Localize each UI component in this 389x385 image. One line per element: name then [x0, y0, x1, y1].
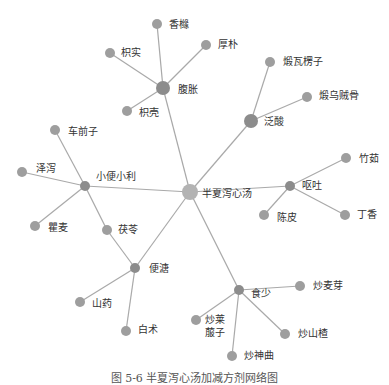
- edge-xiaobian-fuling: [85, 186, 107, 230]
- node-chaoshanzha: [280, 329, 290, 339]
- edge-biantang-shanyao: [80, 268, 135, 302]
- edge-outu-chenpi: [264, 186, 290, 215]
- edge-center-fuzhang: [163, 88, 190, 192]
- edge-center-xiaobian: [85, 186, 190, 192]
- edge-shishao-chaoshenqu: [232, 290, 239, 356]
- node-baizhu: [121, 326, 131, 336]
- edge-fuzhang-xiangyuan: [157, 24, 163, 88]
- node-label-qumai: 瞿麦: [48, 222, 68, 234]
- node-duanwuzeigu: [302, 92, 312, 102]
- node-zhishi: [105, 48, 115, 58]
- node-shanyao: [75, 297, 85, 307]
- node-biantang: [130, 263, 140, 273]
- node-label-xiaobian: 小便小利: [96, 171, 136, 183]
- node-label-dingxiang: 丁香: [357, 209, 377, 221]
- node-label-biantang: 便溏: [149, 263, 169, 275]
- node-label-zhiqiao: 枳壳: [139, 107, 159, 119]
- node-label-zhuru: 竹茹: [359, 153, 379, 165]
- edge-fuzhang-houpo: [163, 45, 206, 88]
- node-fansuan: [244, 114, 258, 128]
- edge-center-fansuan: [190, 121, 251, 192]
- node-label-chaoshanzha: 炒山楂: [298, 328, 328, 340]
- node-chaomaiya: [295, 281, 305, 291]
- edge-center-shishao: [190, 192, 239, 290]
- node-chaoshenqu: [227, 351, 237, 361]
- node-fuzhang: [156, 81, 170, 95]
- node-xiangyuan: [152, 19, 162, 29]
- node-label-shanyao: 山药: [92, 298, 112, 310]
- node-label-chenpi: 陈皮: [277, 212, 297, 224]
- node-duanwalengzi: [265, 57, 275, 67]
- node-label-chaoshenqu: 炒神曲: [244, 350, 274, 362]
- edge-biantang-baizhu: [126, 268, 135, 331]
- edge-center-biantang: [135, 192, 190, 268]
- node-label-houpo: 厚朴: [218, 39, 238, 51]
- node-label-cheqianzi: 车前子: [68, 126, 98, 138]
- node-label-zhishi: 枳实: [121, 47, 141, 59]
- node-chenpi: [259, 210, 269, 220]
- node-label-center: 半夏泻心汤: [202, 188, 252, 200]
- edge-fansuan-duanwalengzi: [251, 62, 270, 121]
- node-label-shishao: 食少: [251, 288, 271, 300]
- node-label-zexie: 泽泻: [36, 163, 56, 175]
- node-cheqianzi: [50, 125, 60, 135]
- node-zhuru: [341, 153, 351, 163]
- node-outu: [285, 181, 295, 191]
- node-zexie: [17, 167, 27, 177]
- edge-xiaobian-qumai: [35, 186, 85, 226]
- node-center: [182, 184, 198, 200]
- node-shishao: [234, 285, 244, 295]
- node-chaolaifuzi: [191, 315, 201, 325]
- node-label-chaomaiya: 炒麦芽: [313, 280, 343, 292]
- node-label-baizhu: 白术: [138, 324, 158, 336]
- edge-xiaobian-cheqianzi: [55, 130, 85, 186]
- figure-caption: 图 5-6 半夏泻心汤加减方剂网络图: [0, 369, 389, 385]
- node-houpo: [201, 40, 211, 50]
- node-label-xiangyuan: 香橼: [169, 19, 189, 31]
- node-label-chaolaifuzi: 炒莱 菔子: [205, 313, 225, 339]
- node-label-fuzhang: 腹胀: [178, 84, 198, 96]
- node-xiaobian: [80, 181, 90, 191]
- node-label-duanwuzeigu: 煅乌贼骨: [319, 90, 359, 102]
- node-zhiqiao: [122, 106, 132, 116]
- node-qumai: [30, 221, 40, 231]
- node-label-fansuan: 泛酸: [264, 116, 284, 128]
- node-dingxiang: [340, 210, 350, 220]
- node-label-fuling: 茯苓: [118, 224, 138, 236]
- node-layer: [17, 19, 351, 361]
- node-fuling: [102, 225, 112, 235]
- node-label-duanwalengzi: 煅瓦楞子: [283, 56, 323, 68]
- node-label-outu: 呕吐: [302, 180, 322, 192]
